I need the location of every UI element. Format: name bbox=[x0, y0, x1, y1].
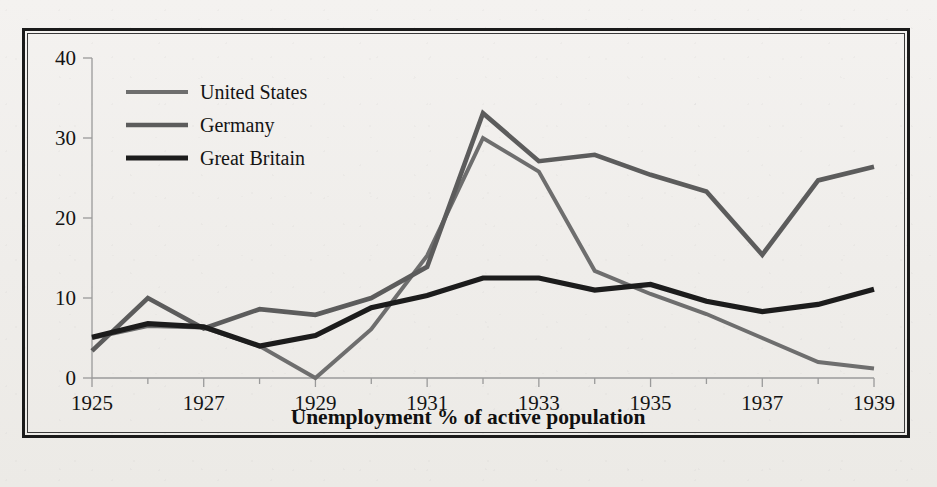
legend-label-great-britain: Great Britain bbox=[200, 147, 305, 169]
y-tick-labels: 010203040 bbox=[55, 46, 76, 390]
x-tick-label-1925: 1925 bbox=[71, 391, 113, 415]
legend-label-united-states: United States bbox=[200, 81, 307, 103]
line-chart: 010203040 192519271929193119331935193719… bbox=[0, 0, 937, 487]
figure-page: 010203040 192519271929193119331935193719… bbox=[0, 0, 937, 487]
y-tick-label-40: 40 bbox=[55, 46, 76, 70]
x-axis-caption: Unemployment % of active population bbox=[291, 405, 646, 429]
x-tick-label-1927: 1927 bbox=[183, 391, 225, 415]
series-line-united-states bbox=[92, 138, 874, 378]
chart-legend: United StatesGermanyGreat Britain bbox=[126, 81, 307, 169]
y-tick-label-30: 30 bbox=[55, 126, 76, 150]
y-tick-label-0: 0 bbox=[66, 366, 77, 390]
legend-label-germany: Germany bbox=[200, 114, 274, 137]
x-tick-label-1937: 1937 bbox=[741, 391, 783, 415]
y-tick-label-10: 10 bbox=[55, 286, 76, 310]
axes bbox=[83, 58, 874, 387]
y-tick-label-20: 20 bbox=[55, 206, 76, 230]
x-tick-label-1939: 1939 bbox=[853, 391, 895, 415]
